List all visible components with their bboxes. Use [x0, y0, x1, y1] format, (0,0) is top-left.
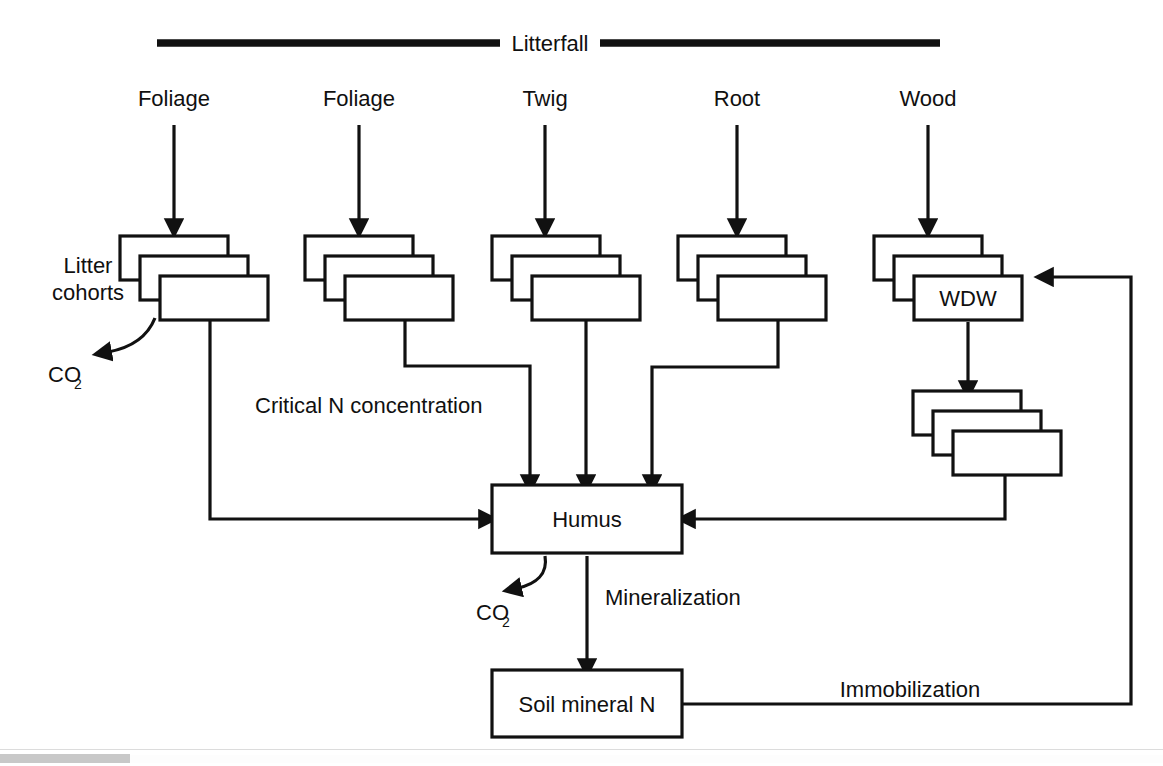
- scrollbar-thumb[interactable]: [0, 754, 130, 763]
- scrollbar-track[interactable]: [0, 755, 1163, 763]
- arrow-cohorts-to-co2: [108, 318, 155, 352]
- soil-mineral-n-label: Soil mineral N: [519, 692, 656, 717]
- cohort-box-front: [718, 276, 826, 320]
- connector-root-to-humus: [652, 320, 778, 478]
- litter-cohorts-label-line1: Litter: [64, 253, 113, 278]
- column-header-twig: Twig: [522, 86, 567, 111]
- column-header-foliage-1: Foliage: [138, 86, 210, 111]
- cohort-box-front: [532, 276, 640, 320]
- litter-decomposition-diagram: Litterfall Foliage Foliage Twig Root Woo…: [0, 0, 1163, 766]
- wdw-label: WDW: [939, 286, 997, 311]
- humus-label: Humus: [552, 507, 622, 532]
- critical-n-concentration-label: Critical N concentration: [255, 393, 482, 418]
- connector-foliage-1-to-humus: [210, 320, 482, 519]
- figure-root: Litterfall Foliage Foliage Twig Root Woo…: [0, 0, 1163, 766]
- cohort-stack-foliage-1: [120, 236, 268, 320]
- co2-label-humus-subscript: 2: [502, 614, 510, 630]
- mineralization-label: Mineralization: [605, 585, 741, 610]
- cohort-box-front: [953, 431, 1061, 475]
- litter-cohorts-label-line2: cohorts: [52, 280, 124, 305]
- cohort-stack-foliage-2: [305, 236, 453, 320]
- connector-wood-debris-to-humus: [692, 475, 1005, 519]
- cohort-stack-twig: [492, 236, 640, 320]
- connector-immobilization-loop: [682, 277, 1131, 704]
- column-header-wood: Wood: [899, 86, 956, 111]
- cohort-stack-root: [678, 236, 826, 320]
- co2-label-litter-subscript: 2: [74, 376, 82, 392]
- arrow-humus-to-co2: [518, 556, 545, 588]
- column-header-foliage-2: Foliage: [323, 86, 395, 111]
- horizontal-scrollbar[interactable]: [0, 749, 1163, 766]
- cohort-stack-wood-debris: [913, 391, 1061, 475]
- immobilization-label: Immobilization: [840, 677, 981, 702]
- cohort-box-front: [345, 276, 453, 320]
- column-header-root: Root: [714, 86, 760, 111]
- cohort-box-front: [160, 276, 268, 320]
- litterfall-title: Litterfall: [511, 31, 588, 56]
